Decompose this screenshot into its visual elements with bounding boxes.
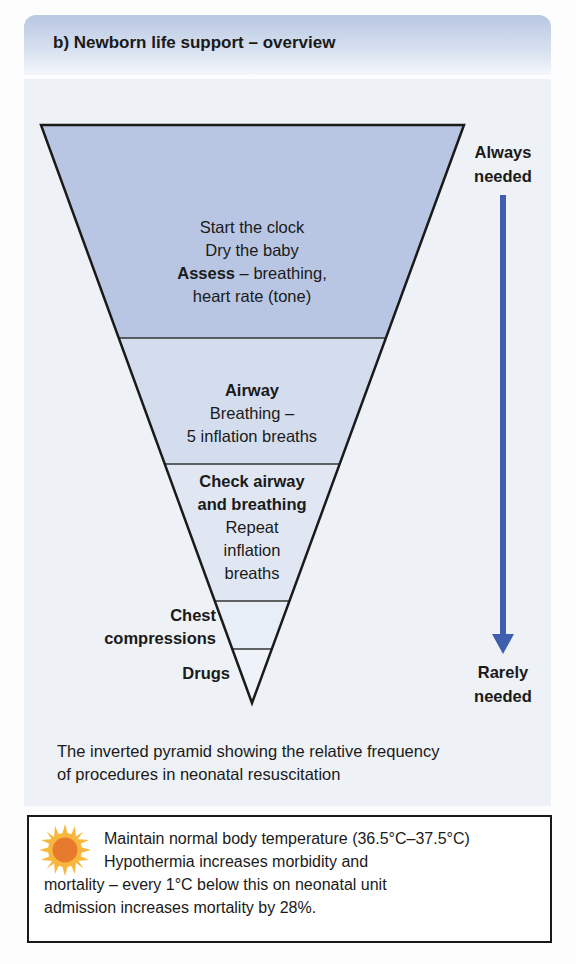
tier-2-line: 5 inflation breaths [152,425,352,448]
note-line: Maintain normal body temperature (36.5°C… [104,830,470,847]
tier-1-assess-line: Assess – breathing, [140,262,364,285]
figure-caption: The inverted pyramid showing the relativ… [57,740,537,786]
tier-3-title: Check airway [172,470,332,493]
always-needed-label: Always needed [458,140,548,188]
tier-3-title: and breathing [172,493,332,516]
frequency-arrow-shaft [500,195,506,635]
tier-4-label-line: Chest [60,604,216,627]
tier-5-label-line: Drugs [120,662,230,685]
tier-2-line: Breathing – [152,402,352,425]
tier-4-label-line: compressions [60,627,216,650]
tier-2-title: Airway [152,379,352,402]
tier-1-line: Start the clock [140,216,364,239]
tier-1-line: Dry the baby [140,239,364,262]
tier-3-line: breaths [172,562,332,585]
note-text: Maintain normal body temperature (36.5°C… [44,827,554,919]
rarely-needed-label: Rarely needed [458,660,548,708]
assess-detail: – breathing, [235,264,327,282]
tier-5-shape [232,649,272,703]
tier-3-line: inflation [172,539,332,562]
assess-label: Assess [177,264,235,282]
axis-top-line: needed [458,164,548,188]
caption-line: of procedures in neonatal resuscitation [57,763,537,786]
caption-line: The inverted pyramid showing the relativ… [57,740,537,763]
tier-5-label: Drugs [120,662,230,685]
tier-3-line: Repeat [172,516,332,539]
tier-1-line: heart rate (tone) [140,285,364,308]
tier-2-text: Airway Breathing – 5 inflation breaths [152,379,352,448]
tier-3-text: Check airway and breathing Repeat inflat… [172,470,332,585]
temperature-note-box: Maintain normal body temperature (36.5°C… [27,815,552,943]
frequency-arrow-head-icon [492,634,514,654]
axis-bottom-line: Rarely [458,660,548,684]
tier-1-text: Start the clock Dry the baby Assess – br… [140,216,364,308]
axis-bottom-line: needed [458,684,548,708]
note-line: admission increases mortality by 28%. [44,896,554,919]
tier-4-label: Chest compressions [60,604,216,650]
note-line: Hypothermia increases morbidity and [104,853,368,870]
tier-4-shape [215,601,290,649]
note-line: mortality – every 1°C below this on neon… [44,873,554,896]
axis-top-line: Always [458,140,548,164]
